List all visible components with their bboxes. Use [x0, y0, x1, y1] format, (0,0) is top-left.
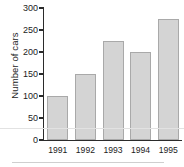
y-axis-tick-group: 050100150200250300 — [0, 0, 38, 167]
bar-chart: Number of cars 050100150200250300 199119… — [0, 0, 184, 167]
y-axis-tick-label: 200 — [2, 48, 38, 57]
bar-1993 — [103, 41, 124, 140]
scan-artifact-line-bottom — [12, 162, 164, 163]
scan-artifact-line — [0, 128, 184, 129]
bar-1991 — [47, 96, 68, 140]
y-axis-tick-label: 50 — [2, 114, 38, 123]
y-axis-tick-mark — [39, 117, 44, 118]
y-axis-tick-label: 150 — [2, 70, 38, 79]
y-axis-tick-label: 250 — [2, 26, 38, 35]
bar-1994 — [130, 52, 151, 140]
bar-1995 — [158, 19, 179, 140]
y-axis-tick-mark — [39, 95, 44, 96]
plot-area — [44, 8, 182, 140]
y-axis-tick-label: 100 — [2, 92, 38, 101]
bar-1992 — [75, 74, 96, 140]
y-axis-tick-mark — [39, 29, 44, 30]
y-axis-tick-mark — [39, 139, 44, 140]
y-axis-tick-mark — [39, 73, 44, 74]
x-axis-tick-label: 1995 — [152, 145, 184, 155]
y-axis-tick-label: 300 — [2, 4, 38, 13]
y-axis-tick-mark — [39, 7, 44, 8]
y-axis-tick-mark — [39, 51, 44, 52]
y-axis-tick-label: 0 — [2, 136, 38, 145]
